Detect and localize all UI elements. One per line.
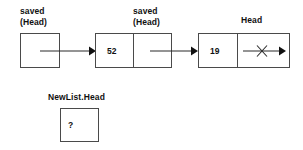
node-2-value: 52	[107, 46, 116, 56]
node-3-value: 19	[210, 46, 219, 56]
node-2-label-line1: saved	[133, 6, 158, 17]
newlist-head-label: NewList.Head	[48, 92, 105, 103]
newlist-head-value: ?	[68, 120, 73, 130]
crossed-out-pointer-arrow	[243, 44, 286, 58]
node-1-label-line1: saved	[20, 6, 45, 17]
node-2-cell-divider	[133, 34, 134, 67]
node-3-cell-divider	[237, 34, 238, 67]
node-3-label-line1: Head	[241, 15, 262, 26]
arrow-node2-to-node3	[150, 44, 198, 58]
newlist-head-box: ?	[60, 108, 99, 142]
node-2-label-line2: (Head)	[133, 17, 160, 28]
arrow-node1-to-node2	[40, 44, 96, 58]
node-1-label-line2: (Head)	[20, 17, 47, 28]
linked-list-diagram: saved (Head) saved (Head) 52 Head 19 New…	[0, 0, 303, 150]
